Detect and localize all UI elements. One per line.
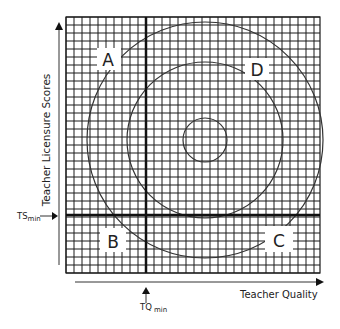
quadrant-diagram: A D B C Teacher Licensure Scores Teacher… [0, 0, 340, 329]
quadrant-label-b: B [107, 232, 119, 252]
tq-min-label: TQmin [139, 302, 167, 314]
x-axis-label: Teacher Quality [239, 289, 318, 300]
x-axis-arrow-icon [316, 278, 324, 286]
middle-circle [127, 62, 283, 218]
quadrant-label-c: C [273, 231, 285, 251]
y-axis-label: Teacher Licensure Scores [40, 74, 52, 208]
quadrant-label-a: A [102, 50, 114, 70]
y-axis-arrow-icon [55, 22, 63, 30]
quadrant-label-d: D [250, 60, 263, 80]
inner-circle [183, 118, 227, 162]
ts-min-label: TSmin [16, 211, 41, 223]
tq-min-arrow-icon [142, 287, 150, 294]
ts-min-arrow-icon [52, 212, 58, 220]
